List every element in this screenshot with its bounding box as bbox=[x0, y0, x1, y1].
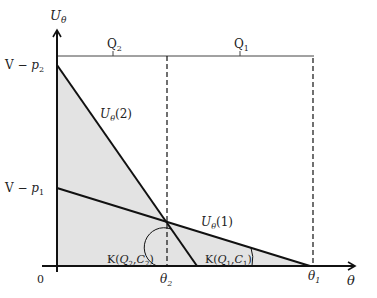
origin-label: 0 bbox=[37, 273, 44, 286]
u-theta-1-label: Uθ(1) bbox=[201, 215, 233, 231]
v-minus-p1-label: V − p1 bbox=[4, 181, 44, 197]
y-axis-label: Uθ bbox=[50, 8, 67, 25]
q1-label: Q1 bbox=[234, 37, 249, 53]
v-minus-p2-label: V − p2 bbox=[4, 58, 44, 74]
shaded-region bbox=[57, 65, 310, 266]
u-theta-2-label: Uθ(2) bbox=[100, 107, 132, 123]
theta1-label: θ1 bbox=[308, 269, 320, 285]
q2-label: Q2 bbox=[107, 37, 122, 53]
theta2-label: θ2 bbox=[160, 272, 172, 288]
x-axis-label: θ bbox=[347, 273, 355, 288]
utility-diagram: Uθ θ 0 Q2 Q1 V − p2 V − p1 θ2 θ1 Uθ(2) U… bbox=[0, 0, 377, 298]
